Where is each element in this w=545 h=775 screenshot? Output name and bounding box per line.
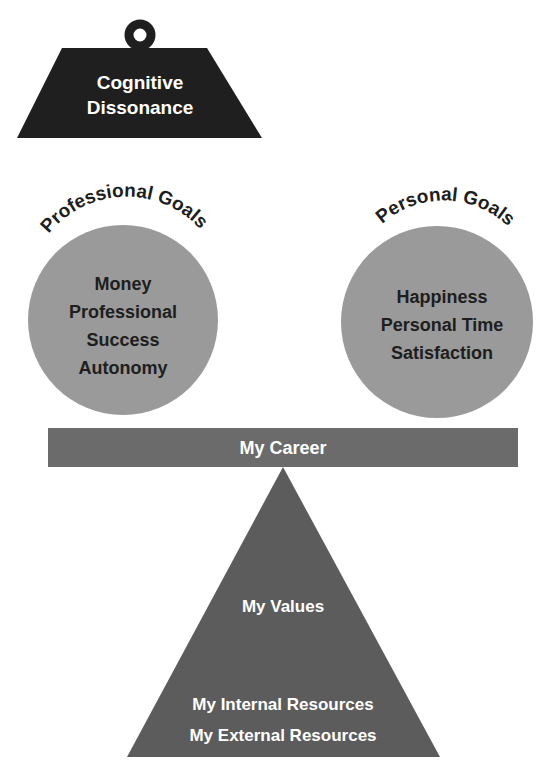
fulcrum-top-label: My Values [242,597,324,616]
weight-label-line-2: Dissonance [87,97,194,118]
personal-goals-group: Personal Goals Happiness Personal Time S… [341,183,533,418]
career-beam-label: My Career [239,438,326,458]
weight-trapezoid [17,48,262,138]
weight-ring-icon [129,24,151,46]
professional-goal-item: Professional [69,302,177,322]
professional-goal-item: Autonomy [79,358,168,378]
weight-label-line-1: Cognitive [97,72,184,93]
values-fulcrum: My Values My Internal Resources My Exter… [127,467,440,757]
balance-diagram: Cognitive Dissonance Professional Goals … [0,0,545,775]
personal-goal-item: Happiness [396,287,487,307]
fulcrum-bottom-label: My Internal Resources [192,695,373,714]
personal-goal-item: Satisfaction [391,343,493,363]
professional-goals-group: Professional Goals Money Professional Su… [28,180,218,415]
personal-goal-item: Personal Time [381,315,504,335]
fulcrum-bottom-label: My External Resources [189,726,376,745]
personal-goals-title: Personal Goals [372,183,520,229]
career-beam: My Career [48,428,518,467]
cognitive-dissonance-weight: Cognitive Dissonance [17,24,262,138]
professional-goal-item: Success [86,330,159,350]
professional-goal-item: Money [94,274,151,294]
